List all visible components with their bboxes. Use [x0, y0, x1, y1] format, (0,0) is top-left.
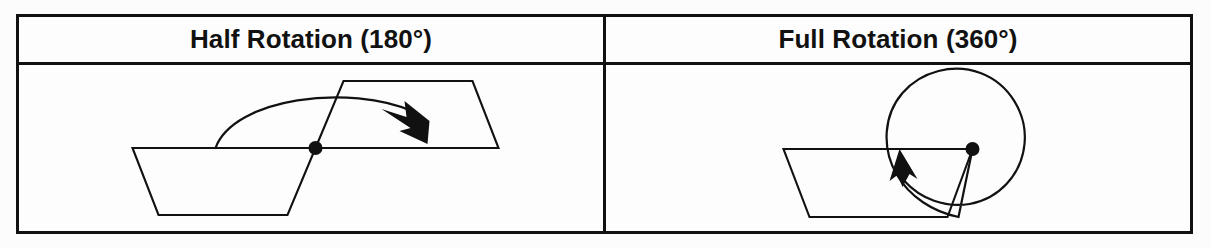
full-rotation-svg [606, 65, 1190, 231]
page-canvas: Half Rotation (180°) Full Rotation (360°… [0, 0, 1211, 248]
table-header-row: Half Rotation (180°) Full Rotation (360°… [18, 16, 1192, 64]
full-rotation-diagram [606, 65, 1190, 231]
rotation-arrow-head [382, 101, 430, 144]
half-rotation-diagram [19, 65, 603, 231]
rotation-comparison-table: Half Rotation (180°) Full Rotation (360°… [16, 14, 1193, 234]
column-header-half-rotation: Half Rotation (180°) [18, 16, 605, 64]
pivot-point [309, 141, 323, 155]
original-trapezoid-shape [133, 148, 316, 215]
original-trapezoid-shape [784, 149, 973, 217]
table-diagram-row [18, 64, 1192, 233]
cell-full-rotation [605, 64, 1192, 233]
cell-half-rotation [18, 64, 605, 233]
rotation-arrow-head [890, 149, 918, 187]
pivot-point [966, 142, 980, 156]
half-rotation-svg [19, 65, 603, 231]
rotation-arc [216, 97, 415, 148]
column-header-full-rotation: Full Rotation (360°) [605, 16, 1192, 64]
